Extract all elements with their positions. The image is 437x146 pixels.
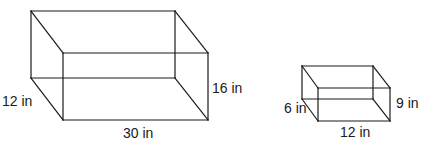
large-prism: 12 in 30 in 16 in <box>2 11 242 141</box>
small-length-label: 12 in <box>340 124 370 140</box>
large-depth-edge-bottom-left <box>31 78 63 120</box>
small-depth-edge-top-left <box>302 66 318 88</box>
large-length-label: 30 in <box>123 125 153 141</box>
large-height-label: 16 in <box>212 80 242 96</box>
small-depth-edge-bottom-right <box>373 99 390 121</box>
small-depth-edge-top-right <box>373 66 390 88</box>
small-height-label: 9 in <box>396 95 419 111</box>
prism-diagram: 12 in 30 in 16 in 6 in 12 in 9 in <box>0 0 437 146</box>
large-depth-edge-top-right <box>175 11 208 53</box>
large-width-label: 12 in <box>2 93 32 109</box>
small-width-label: 6 in <box>284 100 307 116</box>
small-prism: 6 in 12 in 9 in <box>284 66 419 140</box>
large-depth-edge-bottom-right <box>175 78 208 120</box>
large-depth-edge-top-left <box>31 11 63 53</box>
